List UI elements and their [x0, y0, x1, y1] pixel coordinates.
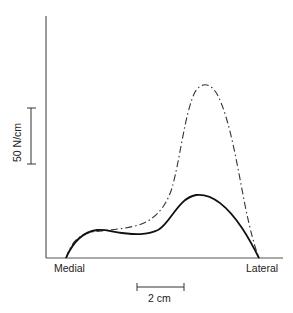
dash-dot-curve — [66, 85, 259, 258]
medial-label: Medial — [54, 262, 85, 274]
solid-curve — [66, 195, 259, 258]
scale-horizontal-label: 2 cm — [148, 292, 171, 304]
horizontal-scale-bar — [137, 283, 184, 291]
lateral-label: Lateral — [246, 262, 278, 274]
vertical-scale-bar — [27, 108, 36, 164]
scale-vertical-label: 50 N/cm — [11, 123, 23, 162]
